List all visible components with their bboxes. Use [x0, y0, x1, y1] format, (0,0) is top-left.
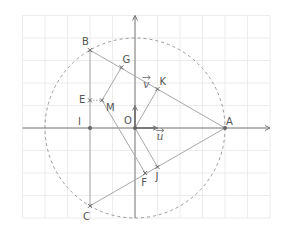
point-label-C: C [83, 211, 90, 222]
vector-label-u: u [156, 130, 163, 143]
point-label-G: G [123, 54, 131, 65]
segment-OK [135, 89, 158, 128]
point-label-K: K [160, 76, 167, 87]
point-marker-I [88, 126, 92, 130]
point-label-I: I [78, 116, 81, 127]
point-label-F: F [141, 177, 147, 188]
vector-label-v: v [143, 78, 150, 91]
point-label-M: M [106, 102, 115, 113]
point-marker-O [133, 126, 137, 130]
points: OABCIEMGKFJ [78, 36, 233, 222]
geometry-figure: uv OABCIEMGKFJ [0, 0, 286, 240]
cross-marker-icon [100, 98, 104, 102]
point-label-O: O [124, 115, 132, 126]
segment-MG [102, 67, 122, 100]
point-label-A: A [226, 116, 233, 127]
point-label-E: E [79, 94, 85, 105]
point-label-J: J [155, 171, 159, 182]
point-label-B: B [82, 36, 89, 47]
